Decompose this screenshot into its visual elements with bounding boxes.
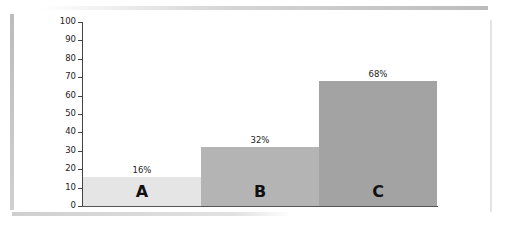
bar-category-label: A (136, 182, 148, 201)
y-tick-label: 60 (42, 90, 76, 100)
y-tick-label: 40 (42, 126, 76, 136)
y-tick (78, 206, 82, 207)
y-tick-label: 20 (42, 163, 76, 173)
frame-left-shadow (10, 14, 14, 210)
y-tick (78, 96, 82, 97)
y-tick (78, 169, 82, 170)
bar-c: C (319, 81, 437, 206)
bar-a: A (83, 177, 201, 206)
y-tick (78, 188, 82, 189)
y-tick-label: 0 (42, 200, 76, 210)
y-tick (78, 40, 82, 41)
y-tick-label: 90 (42, 34, 76, 44)
bar-value-label: 68% (319, 69, 437, 79)
y-tick-label: 70 (42, 71, 76, 81)
y-tick (78, 132, 82, 133)
y-tick-label: 30 (42, 145, 76, 155)
y-tick (78, 59, 82, 60)
frame-right-edge (490, 20, 492, 212)
y-tick (78, 151, 82, 152)
frame-top-shadow (40, 6, 488, 10)
bar-b: B (201, 147, 319, 206)
y-tick-label: 80 (42, 53, 76, 63)
bar-value-label: 16% (83, 165, 201, 175)
bar-value-label: 32% (201, 135, 319, 145)
y-tick (78, 77, 82, 78)
y-tick-label: 10 (42, 182, 76, 192)
bar-category-label: C (372, 182, 384, 201)
bar-category-label: B (254, 182, 266, 201)
y-tick-label: 50 (42, 108, 76, 118)
frame-bottom-shadow (12, 212, 292, 216)
y-tick (78, 114, 82, 115)
y-tick (78, 22, 82, 23)
y-tick-label: 100 (42, 16, 76, 26)
x-axis (82, 206, 438, 207)
